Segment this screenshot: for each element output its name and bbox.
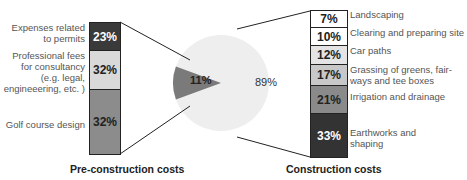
label-landscaping: Landscaping: [350, 9, 404, 20]
caption-preconstruction: Pre-construction costs: [70, 163, 184, 175]
bar-segment-consultancy: 32%: [89, 50, 121, 90]
caption-construction: Construction costs: [286, 163, 382, 175]
label-grassing: Grassing of greens, fair-ways and tee bo…: [350, 64, 452, 86]
bar-segment-clearing: 10%: [310, 27, 348, 46]
bar-segment-permits: 23%: [89, 22, 121, 51]
label-permits: Expenses relatedto permits: [12, 22, 85, 44]
bar-segment-grassing: 17%: [310, 64, 348, 86]
label-design: Golf course design: [6, 119, 85, 130]
bar-segment-irrigation: 21%: [310, 85, 348, 114]
label-car-paths: Car paths: [350, 45, 391, 56]
label-consultancy: Professional feesfor consultancy (e.g. l…: [4, 50, 85, 94]
label-irrigation: Irrigation and drainage: [350, 91, 445, 102]
pie-label-small: 11%: [190, 75, 211, 86]
bar-segment-earthworks: 33%: [310, 113, 348, 158]
label-clearing: Clearing and preparing site: [350, 27, 464, 38]
bar-segment-design: 32%: [89, 89, 121, 155]
bar-segment-car-paths: 12%: [310, 45, 348, 65]
label-earthworks: Earthworks andshaping: [350, 127, 416, 149]
pie-label-large: 89%: [255, 77, 277, 88]
bar-segment-landscaping: 7%: [310, 10, 348, 28]
